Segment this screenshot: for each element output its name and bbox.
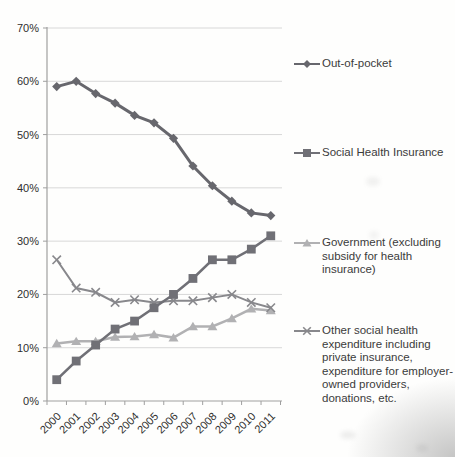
svg-text:2001: 2001 (57, 410, 83, 436)
legend-label: Other social health expenditure includin… (322, 324, 454, 405)
svg-text:2010: 2010 (232, 410, 258, 436)
square-marker-icon (294, 147, 320, 159)
svg-text:50%: 50% (17, 129, 39, 141)
series-diamond (52, 77, 275, 220)
legend-label: Government (excluding subsidy for health… (322, 236, 454, 277)
series-square (52, 231, 275, 384)
legend-label: Out-of-pocket (322, 57, 454, 71)
legend-label: Social Health Insurance (322, 146, 454, 160)
series-triangle (52, 304, 276, 347)
svg-text:40%: 40% (17, 182, 39, 194)
svg-text:2008: 2008 (193, 410, 219, 436)
svg-text:0%: 0% (23, 395, 39, 407)
svg-text:2003: 2003 (96, 410, 122, 436)
svg-text:60%: 60% (17, 75, 39, 87)
svg-text:2011: 2011 (252, 410, 277, 435)
diamond-marker-icon (294, 58, 320, 70)
chart-legend: Out-of-pocket Social Health Insurance Go… (294, 0, 455, 457)
svg-text:2007: 2007 (174, 410, 200, 436)
legend-item-other-social-health-expenditure: Other social health expenditure includin… (294, 324, 454, 405)
svg-text:2000: 2000 (37, 410, 63, 436)
svg-text:70%: 70% (17, 22, 39, 34)
svg-text:30%: 30% (17, 235, 39, 247)
svg-text:10%: 10% (17, 342, 39, 354)
chart-figure: 0%10%20%30%40%50%60%70%20002001200220032… (0, 0, 455, 457)
svg-text:2009: 2009 (212, 410, 238, 436)
legend-item-social-health-insurance: Social Health Insurance (294, 146, 454, 160)
x-marker-icon (294, 325, 320, 337)
svg-text:2004: 2004 (115, 410, 141, 436)
svg-text:2005: 2005 (135, 410, 161, 436)
legend-item-out-of-pocket: Out-of-pocket (294, 57, 454, 71)
triangle-marker-icon (294, 237, 320, 249)
series-x (53, 256, 275, 312)
svg-text:2002: 2002 (76, 410, 102, 436)
svg-text:2006: 2006 (154, 410, 180, 436)
svg-text:20%: 20% (17, 288, 39, 300)
legend-item-government: Government (excluding subsidy for health… (294, 236, 454, 277)
